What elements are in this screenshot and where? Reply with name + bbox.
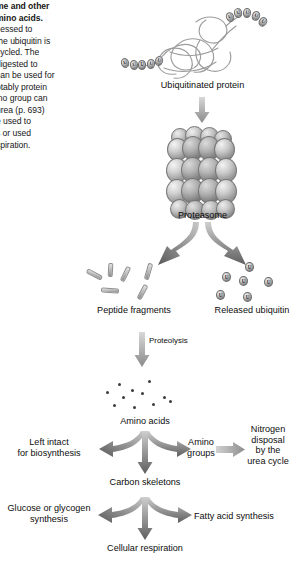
- label-cellular-respiration: Cellular respiration: [89, 543, 201, 554]
- arrow-proteasome-split: [158, 222, 246, 265]
- label-glucose-or-glycogen-synthesis: Glucose or glycogen synthesis: [1, 503, 97, 524]
- arrow-protein-to-proteasome: [195, 97, 210, 123]
- label-proteolysis: Proteolysis: [149, 336, 219, 345]
- label-released-ubiquitin: Released ubiquitin: [196, 305, 299, 316]
- label-peptide-fragments: Peptide fragments: [78, 305, 190, 316]
- label-proteasome: Proteasome: [145, 210, 260, 221]
- label-amino-acids: Amino acids: [97, 416, 193, 427]
- label-ubiquitinated-protein: Ubiquitinated protein: [130, 80, 275, 91]
- proteasome-icon: [167, 128, 237, 220]
- label-amino-groups: Amino groups: [177, 437, 225, 458]
- label-carbon-skeletons: Carbon skeletons: [92, 477, 198, 488]
- peptide-fragment-icon: [108, 263, 113, 277]
- label-left-intact-for-biosynthesis: Left intact for biosynthesis: [2, 437, 96, 458]
- label-fatty-acid-synthesis: Fatty acid synthesis: [194, 511, 298, 522]
- figure-panel: me and othermino acids.cessed to the ubi…: [0, 0, 299, 563]
- arrow-carbon-skeletons-fork: [98, 497, 192, 540]
- ubiquitin-bead-icon: U: [138, 60, 146, 70]
- protein-backbone-icon: [139, 17, 238, 78]
- label-nitrogen-disposal-urea-cycle: Nitrogen disposal by the urea cycle: [238, 424, 298, 466]
- arrow-proteolysis: [135, 332, 150, 367]
